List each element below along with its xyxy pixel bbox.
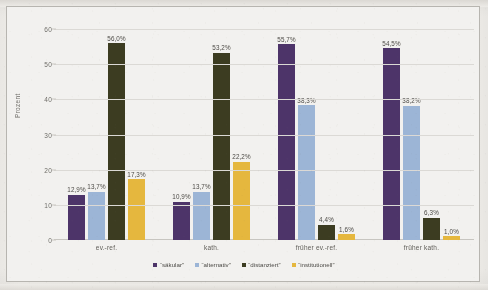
gridline xyxy=(54,64,474,65)
bar[interactable]: 10,9% xyxy=(173,202,190,240)
y-axis-title: Prozent xyxy=(14,93,21,118)
bar-value-label: 55,7% xyxy=(277,36,295,43)
legend-item[interactable]: “alternativ” xyxy=(195,261,231,268)
legend-item[interactable]: “säkular” xyxy=(153,261,184,268)
bar[interactable]: 56,0% xyxy=(108,43,125,240)
bar-fill xyxy=(278,44,295,240)
bar-groups: 12,9%13,7%56,0%17,3%10,9%13,7%53,2%22,2%… xyxy=(54,22,474,240)
y-axis-tick-label: 10 xyxy=(26,201,52,208)
bar[interactable]: 53,2% xyxy=(213,53,230,240)
bar-fill xyxy=(298,105,315,240)
bar[interactable]: 38,3% xyxy=(298,105,315,240)
legend-label: “institutionell” xyxy=(298,261,334,268)
bar[interactable]: 22,2% xyxy=(233,162,250,240)
bar-fill xyxy=(338,234,355,240)
bar[interactable]: 13,7% xyxy=(88,192,105,240)
x-axis-category-label: kath. xyxy=(159,244,264,251)
bar-fill xyxy=(403,106,420,240)
bar-fill xyxy=(108,43,125,240)
bar-fill xyxy=(193,192,210,240)
bar-fill xyxy=(173,202,190,240)
plot-area: 12,9%13,7%56,0%17,3%10,9%13,7%53,2%22,2%… xyxy=(54,22,474,240)
legend-swatch-icon xyxy=(242,263,246,267)
bar[interactable]: 55,7% xyxy=(278,44,295,240)
bar[interactable]: 17,3% xyxy=(128,179,145,240)
bar-value-label: 13,7% xyxy=(192,183,210,190)
y-tick-mark xyxy=(52,64,56,65)
y-tick-mark xyxy=(52,240,56,241)
legend-label: “distanziert” xyxy=(248,261,280,268)
bar[interactable]: 4,4% xyxy=(318,225,335,240)
bar[interactable]: 12,9% xyxy=(68,195,85,240)
bar-fill xyxy=(88,192,105,240)
gridline xyxy=(54,29,474,30)
legend-swatch-icon xyxy=(153,263,157,267)
bar-fill xyxy=(318,225,335,240)
y-axis-tick-label: 0 xyxy=(26,237,52,244)
bar-fill xyxy=(443,236,460,240)
bar-fill xyxy=(383,48,400,240)
bar-value-label: 56,0% xyxy=(107,35,125,42)
bar-fill xyxy=(128,179,145,240)
chart-legend: “säkular”“alternativ”“distanziert”“insti… xyxy=(0,261,488,268)
y-tick-mark xyxy=(52,134,56,135)
legend-item[interactable]: “institutionell” xyxy=(292,261,335,268)
bar[interactable]: 38,2% xyxy=(403,106,420,240)
y-tick-mark xyxy=(52,169,56,170)
x-axis-category-label: früher kath. xyxy=(369,244,474,251)
gridline xyxy=(54,170,474,171)
bar-group: 10,9%13,7%53,2%22,2% xyxy=(159,22,264,240)
bar-fill xyxy=(233,162,250,240)
bar[interactable]: 13,7% xyxy=(193,192,210,240)
bar-value-label: 38,3% xyxy=(297,97,315,104)
x-axis-category-label: früher ev.-ref. xyxy=(264,244,369,251)
bar[interactable]: 1,0% xyxy=(443,236,460,240)
bar-group: 12,9%13,7%56,0%17,3% xyxy=(54,22,159,240)
y-tick-mark xyxy=(52,99,56,100)
bar-fill xyxy=(213,53,230,240)
scanned-page: Prozent 12,9%13,7%56,0%17,3%10,9%13,7%53… xyxy=(0,0,488,290)
bar-chart: Prozent 12,9%13,7%56,0%17,3%10,9%13,7%53… xyxy=(0,0,488,290)
legend-label: “säkular” xyxy=(160,261,184,268)
x-axis-labels: ev.-ref.kath.früher ev.-ref.früher kath. xyxy=(54,244,474,251)
gridline xyxy=(54,135,474,136)
bar-value-label: 22,2% xyxy=(232,153,250,160)
y-axis-tick-label: 30 xyxy=(26,131,52,138)
legend-label: “alternativ” xyxy=(202,261,231,268)
legend-swatch-icon xyxy=(292,263,296,267)
gridline xyxy=(54,205,474,206)
bar-value-label: 12,9% xyxy=(67,186,85,193)
y-axis-tick-label: 40 xyxy=(26,96,52,103)
legend-swatch-icon xyxy=(195,263,199,267)
y-tick-mark xyxy=(52,29,56,30)
bar[interactable]: 1,6% xyxy=(338,234,355,240)
bar-fill xyxy=(68,195,85,240)
bar-value-label: 17,3% xyxy=(127,171,145,178)
bar-group: 54,5%38,2%6,3%1,0% xyxy=(369,22,474,240)
y-tick-mark xyxy=(52,204,56,205)
bar-value-label: 6,3% xyxy=(424,209,439,216)
legend-item[interactable]: “distanziert” xyxy=(242,261,281,268)
bar-value-label: 38,2% xyxy=(402,97,420,104)
bar-value-label: 1,6% xyxy=(339,226,354,233)
bar-value-label: 54,5% xyxy=(382,40,400,47)
y-axis-tick-label: 20 xyxy=(26,166,52,173)
bar-fill xyxy=(423,218,440,240)
bar[interactable]: 54,5% xyxy=(383,48,400,240)
gridline xyxy=(54,99,474,100)
x-axis-category-label: ev.-ref. xyxy=(54,244,159,251)
bar-value-label: 4,4% xyxy=(319,216,334,223)
bar[interactable]: 6,3% xyxy=(423,218,440,240)
bar-value-label: 53,2% xyxy=(212,44,230,51)
bar-value-label: 13,7% xyxy=(87,183,105,190)
bar-group: 55,7%38,3%4,4%1,6% xyxy=(264,22,369,240)
y-axis-tick-label: 60 xyxy=(26,26,52,33)
y-axis-tick-label: 50 xyxy=(26,61,52,68)
bar-value-label: 1,0% xyxy=(444,228,459,235)
bar-value-label: 10,9% xyxy=(172,193,190,200)
